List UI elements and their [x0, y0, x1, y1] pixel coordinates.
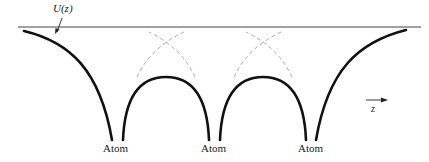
- potential-curve: [24, 30, 406, 140]
- z-axis-label: z: [371, 103, 375, 114]
- atom-label-3: Atom: [298, 142, 323, 154]
- potential-label: U(z): [53, 2, 73, 14]
- z-direction-arrow: [366, 98, 388, 103]
- atom-label-1: Atom: [103, 142, 128, 154]
- atom-label-2: Atom: [201, 142, 226, 154]
- label-pointer-arrow: [55, 18, 62, 34]
- dashed-extensions: [137, 32, 292, 77]
- potential-diagram: [0, 0, 429, 162]
